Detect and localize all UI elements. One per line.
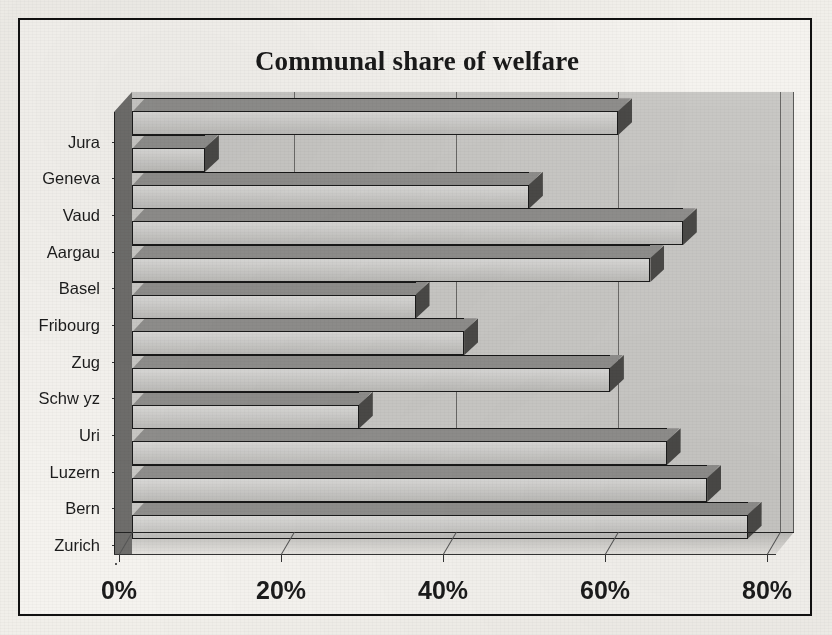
bar-front-face [132,221,683,245]
plot-area [114,92,794,554]
bar-front-face [132,148,205,172]
category-minor-tick [115,563,117,565]
bar-top-face [132,318,477,332]
bar-front-face [132,111,618,135]
x-axis-label-0%: 0% [101,576,137,605]
bar-zug[interactable] [132,368,610,392]
bar-top-face [132,135,218,149]
bar-top-face [132,355,623,369]
bar-front-face [132,368,610,392]
bar-front-face [132,405,359,429]
bar-basel[interactable] [132,295,416,319]
category-axis-labels: JuraGenevaVaudAargauBaselFribourgZugSchw… [20,92,112,562]
x-tick-0% [119,554,120,562]
bar-top-face [132,245,663,259]
x-axis-label-20%: 20% [256,576,306,605]
bar-top-face [132,282,429,296]
bar-top-face [132,98,631,112]
bar-luzern[interactable] [132,478,707,502]
bar-front-face [132,478,707,502]
bar-top-face [132,208,696,222]
bar-aargau[interactable] [132,258,650,282]
category-label-uri: Uri [79,426,100,444]
bar-vaud[interactable] [132,221,683,245]
value-axis-line [114,554,776,555]
category-label-zug: Zug [72,353,100,371]
category-label-schw-yz: Schw yz [39,389,100,407]
x-tick-80% [767,554,768,562]
category-label-luzern: Luzern [50,463,100,481]
bar-top-face [132,502,761,516]
scanned-page: Communal share of welfare JuraGenevaVaud… [0,0,832,635]
category-label-aargau: Aargau [47,243,100,261]
category-axis-line [114,112,115,554]
x-tick-20% [281,554,282,562]
bar-schwyz[interactable] [132,405,359,429]
bar-top-face [132,392,372,406]
bar-front-face [132,295,416,319]
category-label-zurich: Zurich [54,536,100,554]
x-axis-label-60%: 60% [580,576,630,605]
x-tick-40% [443,554,444,562]
bar-front-face [132,515,748,539]
category-label-fribourg: Fribourg [39,316,100,334]
gridline-80 [780,92,781,532]
bar-uri[interactable] [132,441,667,465]
bar-front-face [132,185,529,209]
chart-frame: Communal share of welfare JuraGenevaVaud… [18,18,812,616]
chart-title: Communal share of welfare [20,46,814,77]
category-label-bern: Bern [65,499,100,517]
bar-top[interactable] [132,111,618,135]
bar-top-face [132,465,720,479]
category-label-geneva: Geneva [42,169,100,187]
category-label-jura: Jura [68,133,100,151]
bar-front-face [132,441,667,465]
bar-top-face [132,428,680,442]
bar-front-face [132,258,650,282]
bar-fribourg[interactable] [132,331,464,355]
x-axis-label-40%: 40% [418,576,468,605]
bar-bern[interactable] [132,515,748,539]
x-axis-label-80%: 80% [742,576,792,605]
x-tick-60% [605,554,606,562]
bar-top-face [132,172,542,186]
bar-front-face [132,331,464,355]
plot-side-wall [114,92,134,554]
category-label-basel: Basel [59,279,100,297]
category-label-vaud: Vaud [63,206,100,224]
bar-jura[interactable] [132,148,205,172]
bar-geneva[interactable] [132,185,529,209]
